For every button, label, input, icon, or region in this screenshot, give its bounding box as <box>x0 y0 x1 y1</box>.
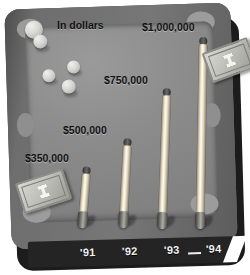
bar-1994-butt <box>195 212 205 229</box>
x-label-1991: '91 <box>80 246 96 258</box>
x-label-1993: '93 <box>164 244 180 256</box>
unit-label: In dollars <box>57 19 104 31</box>
x-label-dash <box>188 252 201 254</box>
x-label-1992: '92 <box>122 245 138 257</box>
value-label-1994: $1,000,000 <box>142 21 195 33</box>
bar-1993-butt <box>157 212 168 229</box>
value-label-1993: $750,000 <box>104 74 148 86</box>
bar-1992-butt <box>118 211 129 229</box>
chart-figure: In dollars $350,000 $500,000 $750,000 $1… <box>0 0 250 275</box>
bar-1991-butt <box>77 211 88 229</box>
bar-1994-tip <box>199 37 207 44</box>
value-label-1992: $500,000 <box>63 124 107 136</box>
bar-1991-tip <box>82 166 91 174</box>
bar-1993-tip <box>163 88 171 95</box>
x-label-1994: '94 <box>206 242 222 254</box>
bar-1992-tip <box>123 138 131 145</box>
value-label-1991: $350,000 <box>25 152 69 164</box>
